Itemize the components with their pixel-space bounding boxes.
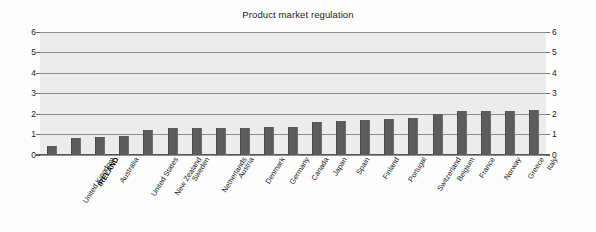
- x-axis-label: Germany: [288, 156, 311, 186]
- y-tick-mark-right-5: [546, 52, 550, 53]
- x-axis-label: Spain: [355, 156, 372, 176]
- y-tick-mark-right-1: [546, 134, 550, 135]
- y-tick-mark-left-6: [36, 32, 40, 33]
- bar: [457, 111, 467, 155]
- x-axis-label: Finland: [382, 156, 402, 181]
- y-tick-right-5: 5: [552, 48, 576, 57]
- y-tick-right-0: 0: [552, 151, 576, 160]
- bar: [312, 122, 322, 155]
- bar: [95, 137, 105, 155]
- x-axis-label: Greece: [526, 156, 546, 181]
- y-tick-left-2: 2: [12, 110, 36, 119]
- x-axis-label: Canada: [310, 156, 331, 182]
- bar: [143, 130, 153, 155]
- y-tick-mark-left-0: [36, 155, 40, 156]
- bar: [119, 136, 129, 155]
- y-tick-left-6: 6: [12, 28, 36, 37]
- bar: [481, 111, 491, 155]
- bar: [168, 128, 178, 155]
- bar: [360, 120, 370, 155]
- y-tick-left-4: 4: [12, 69, 36, 78]
- bar: [71, 138, 81, 155]
- y-tick-mark-right-2: [546, 114, 550, 115]
- bar: [216, 128, 226, 155]
- y-tick-left-3: 3: [12, 89, 36, 98]
- bar: [384, 119, 394, 155]
- y-tick-right-1: 1: [552, 130, 576, 139]
- x-axis-label: Denmark: [264, 156, 287, 186]
- chart-title: Product market regulation: [0, 9, 596, 20]
- bar: [47, 146, 57, 155]
- bar: [433, 114, 443, 155]
- x-axis-category-labels: United KingdomIRELANDAustraliaUnited Sta…: [40, 156, 546, 232]
- y-tick-right-2: 2: [552, 110, 576, 119]
- bar: [529, 110, 539, 155]
- bars-layer: [40, 32, 546, 155]
- y-tick-mark-left-2: [36, 114, 40, 115]
- bar: [192, 128, 202, 155]
- x-axis-label: Portugal: [407, 156, 428, 184]
- bar: [264, 127, 274, 155]
- bar: [408, 118, 418, 155]
- y-tick-left-5: 5: [12, 48, 36, 57]
- y-tick-mark-right-3: [546, 93, 550, 94]
- x-axis-label: Japan: [332, 156, 349, 177]
- bar: [240, 128, 250, 155]
- x-axis-label: Norway: [503, 156, 523, 181]
- y-tick-right-3: 3: [552, 89, 576, 98]
- y-tick-mark-left-3: [36, 93, 40, 94]
- y-tick-mark-right-0: [546, 155, 550, 156]
- y-tick-right-4: 4: [552, 69, 576, 78]
- bar: [505, 111, 515, 155]
- y-tick-mark-right-6: [546, 32, 550, 33]
- x-axis-label: France: [477, 156, 496, 180]
- y-tick-left-1: 1: [12, 130, 36, 139]
- y-tick-mark-right-4: [546, 73, 550, 74]
- y-tick-left-0: 0: [12, 151, 36, 160]
- y-tick-right-6: 6: [552, 28, 576, 37]
- y-tick-mark-left-5: [36, 52, 40, 53]
- product-market-regulation-chart: Product market regulation United Kingdom…: [0, 0, 596, 232]
- bar: [288, 127, 298, 155]
- y-tick-mark-left-1: [36, 134, 40, 135]
- bar: [336, 121, 346, 155]
- y-tick-mark-left-4: [36, 73, 40, 74]
- x-axis-label: Australia: [119, 156, 141, 185]
